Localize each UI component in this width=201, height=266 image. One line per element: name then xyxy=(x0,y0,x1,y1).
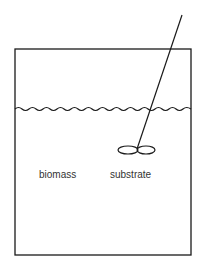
impeller-blade-right xyxy=(137,146,155,154)
biomass-label: biomass xyxy=(39,169,76,181)
reactor-diagram xyxy=(0,0,201,266)
stirrer-shaft xyxy=(137,15,182,149)
impeller-blade-left xyxy=(118,146,138,154)
liquid-surface xyxy=(15,108,191,111)
substrate-label: substrate xyxy=(110,169,151,181)
vessel-outline xyxy=(15,49,191,255)
